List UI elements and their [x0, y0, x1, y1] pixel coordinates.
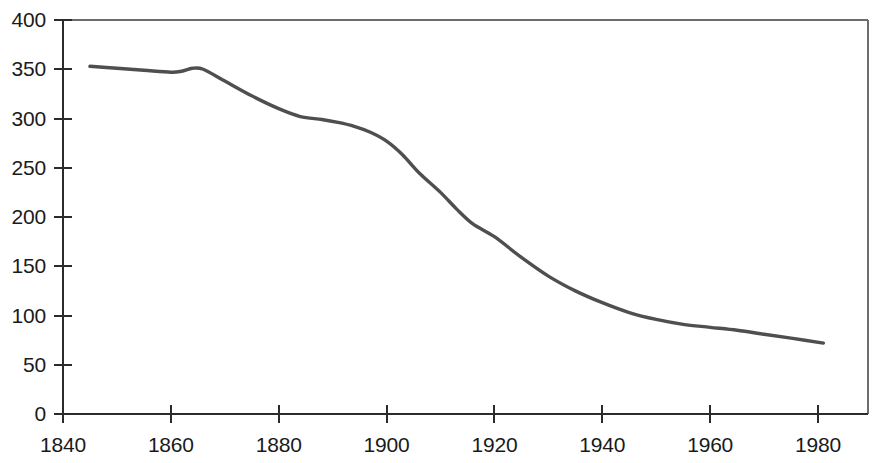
chart-container: 050100150200250300350400 184018601880190… — [0, 0, 876, 463]
y-tick-label: 300 — [12, 107, 46, 130]
y-tick-label: 100 — [12, 304, 46, 327]
x-tick-label: 1940 — [579, 433, 625, 456]
y-tick-label: 250 — [12, 156, 46, 179]
y-tick-label: 200 — [12, 205, 46, 228]
x-tick-label: 1960 — [687, 433, 733, 456]
x-tick-label: 1900 — [364, 433, 410, 456]
x-tick-label: 1920 — [471, 433, 517, 456]
y-tick-label: 50 — [23, 353, 46, 376]
x-tick-group: 18401860188019001920194019601980 — [40, 405, 841, 456]
y-tick-label: 0 — [35, 402, 46, 425]
y-tick-label: 350 — [12, 57, 46, 80]
y-tick-label: 150 — [12, 254, 46, 277]
y-tick-label: 400 — [12, 8, 46, 31]
x-tick-label: 1860 — [148, 433, 194, 456]
x-tick-label: 1980 — [795, 433, 841, 456]
data-series-group — [90, 66, 823, 343]
x-tick-label: 1840 — [40, 433, 86, 456]
line-chart: 050100150200250300350400 184018601880190… — [0, 0, 876, 463]
x-tick-label: 1880 — [256, 433, 302, 456]
data-line-series-1 — [90, 66, 823, 343]
